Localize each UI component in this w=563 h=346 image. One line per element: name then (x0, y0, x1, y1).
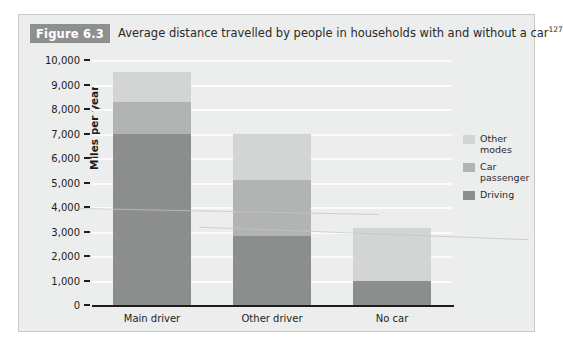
y-axis-tick-mark (84, 84, 90, 86)
y-axis-tick-label: 0 (28, 300, 80, 311)
y-axis-tick-label: 3,000 (28, 226, 80, 237)
legend-item-label: Driving (480, 189, 533, 200)
figure-title-footnote-marker: 127 (549, 25, 563, 34)
bar-group (353, 60, 431, 305)
legend-color-swatch (463, 163, 475, 172)
legend-item-label: modes (480, 144, 533, 155)
chart-legend: OthermodesCarpassengerDriving (463, 133, 533, 208)
y-axis-tick-label: 9,000 (28, 79, 80, 90)
bar-segment-driving (353, 281, 431, 306)
x-axis-line (92, 305, 454, 307)
bar-segment-car-passenger (113, 102, 191, 134)
figure-panel: Figure 6.3 Average distance travelled by… (18, 14, 535, 332)
bar-segment-car-passenger (233, 180, 311, 236)
legend-color-swatch (463, 191, 475, 200)
y-axis-tick-label: 10,000 (28, 55, 80, 66)
x-axis-tick-label: Other driver (212, 313, 332, 324)
legend-item-label: Car (480, 161, 533, 172)
legend-item-label: passenger (480, 172, 533, 183)
y-axis-tick-label: 5,000 (28, 177, 80, 188)
bar-group (233, 60, 311, 305)
bar-segment-other-modes (353, 228, 431, 281)
y-axis-tick-mark (84, 255, 90, 257)
y-axis-tick-label: 4,000 (28, 202, 80, 213)
chart-plot-area: Miles per year 10,0009,0008,0007,0006,00… (92, 60, 452, 305)
y-axis-tick-label: 8,000 (28, 104, 80, 115)
y-axis-tick-mark (84, 280, 90, 282)
y-axis-tick-label: 7,000 (28, 128, 80, 139)
y-axis-tick-mark (84, 206, 90, 208)
x-axis-tick-label: Main driver (92, 313, 212, 324)
x-axis-tick-label: No car (332, 313, 452, 324)
figure-title: Average distance travelled by people in … (118, 25, 563, 40)
bar-segment-driving (113, 134, 191, 306)
bar-group (113, 60, 191, 305)
y-axis-tick-label: 6,000 (28, 153, 80, 164)
legend-color-swatch (463, 135, 475, 144)
bar-segment-other-modes (233, 134, 311, 181)
y-axis-tick-mark (84, 182, 90, 184)
bar-segment-driving (233, 236, 311, 305)
legend-item: Othermodes (463, 133, 533, 155)
legend-item: Carpassenger (463, 161, 533, 183)
legend-item: Driving (463, 189, 533, 202)
y-axis-tick-mark (84, 157, 90, 159)
y-axis-tick-mark (84, 231, 90, 233)
figure-number-badge: Figure 6.3 (30, 24, 110, 43)
bar-segment-other-modes (113, 72, 191, 101)
y-axis-tick-label: 2,000 (28, 251, 80, 262)
y-axis-tick-mark (84, 304, 90, 306)
figure-title-text: Average distance travelled by people in … (118, 26, 549, 40)
y-axis-tick-label: 1,000 (28, 275, 80, 286)
y-axis-tick-mark (84, 59, 90, 61)
legend-item-label: Other (480, 133, 533, 144)
y-axis-tick-mark (84, 133, 90, 135)
y-axis-tick-mark (84, 108, 90, 110)
figure-header: Figure 6.3 Average distance travelled by… (19, 15, 534, 53)
